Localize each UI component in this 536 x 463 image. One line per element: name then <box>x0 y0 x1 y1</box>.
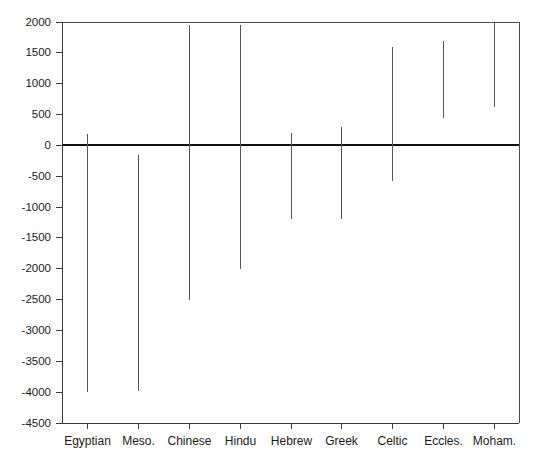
y-tick-label: 1000 <box>25 77 51 89</box>
y-tick-label: -4500 <box>22 417 51 429</box>
y-tick-label: 1500 <box>25 46 51 58</box>
y-axis-ticks <box>56 22 62 423</box>
x-tick-label: Greek <box>325 434 359 448</box>
y-tick-label: -4000 <box>22 386 51 398</box>
y-tick-label: -2500 <box>22 293 51 305</box>
x-axis-ticks <box>88 423 495 429</box>
y-tick-label: -3500 <box>22 355 51 367</box>
y-axis-tick-labels: 2000150010005000-500-1000-1500-2000-2500… <box>22 16 51 429</box>
data-range-bars <box>88 23 495 392</box>
x-tick-label: Egyptian <box>64 434 111 448</box>
calendar-era-range-chart: 2000150010005000-500-1000-1500-2000-2500… <box>0 0 536 463</box>
x-tick-label: Chinese <box>167 434 211 448</box>
y-tick-label: -1000 <box>22 201 51 213</box>
y-tick-label: -1500 <box>22 231 51 243</box>
x-tick-label: Moham. <box>473 434 516 448</box>
y-tick-label: 2000 <box>25 16 51 28</box>
x-tick-label: Celtic <box>377 434 407 448</box>
x-axis-tick-labels: EgyptianMeso.ChineseHinduHebrewGreekCelt… <box>64 434 516 448</box>
y-tick-label: 0 <box>45 139 51 151</box>
y-tick-label: -3000 <box>22 324 51 336</box>
x-tick-label: Meso. <box>122 434 155 448</box>
y-tick-label: -2000 <box>22 262 51 274</box>
plot-frame <box>62 22 519 423</box>
y-tick-label: -500 <box>28 170 51 182</box>
y-tick-label: 500 <box>32 108 51 120</box>
x-tick-label: Hebrew <box>271 434 313 448</box>
x-tick-label: Eccles. <box>424 434 463 448</box>
chart-canvas: 2000150010005000-500-1000-1500-2000-2500… <box>0 0 536 463</box>
x-tick-label: Hindu <box>225 434 256 448</box>
